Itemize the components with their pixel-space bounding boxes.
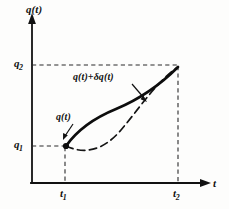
tick-label-t1-sub: 1 xyxy=(63,193,67,202)
tick-label-t2-sub: 2 xyxy=(176,193,180,202)
tick-label-t2: t2 xyxy=(173,188,180,201)
guide-lines-group xyxy=(32,65,178,183)
varied-path-leader-line xyxy=(132,84,144,98)
tick-label-q2: q2 xyxy=(14,58,23,71)
start-point-dot xyxy=(63,143,69,149)
y-axis-label: q(t) xyxy=(26,4,42,15)
x-axis-label: t xyxy=(213,178,216,189)
true-path-leader-arrowhead xyxy=(63,133,68,140)
true-path-leader-line xyxy=(65,124,73,136)
tick-label-q1-sub: 1 xyxy=(19,144,23,153)
variational-path-diagram: q(t) t q2 q1 t1 t2 q(t)+δq(t) q(t) xyxy=(0,0,229,209)
diagram-canvas xyxy=(0,0,229,209)
tick-label-q1: q1 xyxy=(14,139,23,152)
tick-label-q2-sub: 2 xyxy=(19,63,23,72)
axes-group xyxy=(28,13,211,187)
true-path-label: q(t) xyxy=(56,112,71,122)
varied-path-label: q(t)+δq(t) xyxy=(73,72,114,82)
x-axis-arrowhead xyxy=(200,179,211,187)
tick-label-t1: t1 xyxy=(60,188,67,201)
